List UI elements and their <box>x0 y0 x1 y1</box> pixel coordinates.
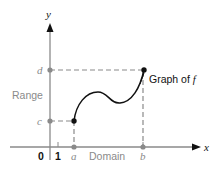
b-label: b <box>140 150 146 162</box>
function-name: f <box>193 74 198 85</box>
x-axis-label: x <box>203 141 209 153</box>
point-d <box>47 67 52 72</box>
point-c <box>47 118 52 123</box>
a-label: a <box>71 150 77 162</box>
y-axis-arrow-icon <box>47 23 54 32</box>
point-a <box>71 144 76 149</box>
curve-start-point <box>71 118 76 123</box>
y-axis-label: y <box>45 8 51 20</box>
graph-of-label-text: Graph of <box>149 73 193 85</box>
curve-end-point <box>141 67 146 72</box>
range-label: Range <box>12 89 43 101</box>
graph-of-f-curve <box>74 70 144 121</box>
one-label: 1 <box>55 150 61 162</box>
domain-label: Domain <box>89 150 125 162</box>
y-axis <box>47 23 54 160</box>
x-axis-arrow-icon <box>192 144 201 151</box>
c-label: c <box>37 115 42 127</box>
domain-range-diagram: y x d c Range Domain 0 1 a b Graph of f <box>0 0 222 170</box>
graph-of-f-label: Graph of f <box>149 73 198 85</box>
zero-label: 0 <box>38 150 44 162</box>
d-label: d <box>37 64 43 76</box>
point-b <box>140 144 145 149</box>
dashed-guides <box>50 70 144 147</box>
